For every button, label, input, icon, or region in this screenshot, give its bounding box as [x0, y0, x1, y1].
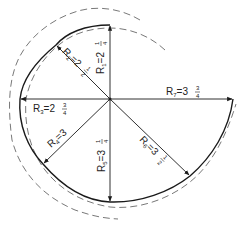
svg-text:4: 4: [102, 41, 108, 45]
label-r2: R2=2 1 2: [59, 45, 92, 78]
svg-text:1: 1: [162, 154, 169, 161]
svg-text:R3=2: R3=2: [33, 103, 55, 115]
label-r4: R4=3: [45, 126, 70, 150]
svg-text:4: 4: [103, 139, 109, 143]
svg-text:1: 1: [85, 65, 92, 72]
spiral-diagram: R1=2 1 4 R2=2 1 2 R3=2 3 4 R4=3 R5=3 1 4…: [0, 0, 240, 226]
label-r1: R1=2 1 4: [94, 41, 108, 74]
label-r5: R5=3 1 4: [95, 139, 109, 172]
center-point: [109, 98, 112, 101]
label-r7: R7=3 3 4: [166, 85, 200, 99]
label-r6: R6=3 1 2: [136, 133, 169, 166]
svg-text:4: 4: [63, 110, 67, 116]
svg-text:R2=2: R2=2: [60, 46, 84, 70]
svg-text:3: 3: [196, 85, 200, 91]
inner-dashed-curve: [26, 28, 236, 207]
svg-text:4: 4: [196, 93, 200, 99]
svg-text:R6=3: R6=3: [137, 134, 161, 158]
svg-text:R1=2: R1=2: [95, 52, 107, 74]
svg-text:R4=3: R4=3: [45, 126, 70, 150]
svg-text:R7=3: R7=3: [166, 86, 188, 98]
outer-dashed-curve: [10, 8, 140, 219]
svg-text:R5=3: R5=3: [96, 150, 108, 172]
label-r3: R3=2 3 4: [33, 102, 67, 116]
svg-text:1: 1: [95, 139, 101, 143]
svg-text:1: 1: [94, 41, 100, 45]
svg-text:2: 2: [156, 159, 163, 166]
svg-text:3: 3: [63, 102, 67, 108]
